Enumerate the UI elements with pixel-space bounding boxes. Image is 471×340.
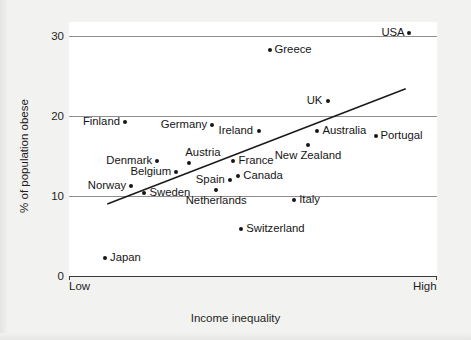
x-tick-high: High	[413, 280, 437, 292]
data-point	[103, 256, 107, 260]
data-point-label: Portugal	[381, 130, 423, 141]
figure-left-edge-shading	[0, 0, 8, 340]
data-point-label: Switzerland	[246, 223, 304, 234]
plot-panel	[69, 22, 437, 276]
gridline-20	[69, 116, 437, 117]
data-point-label: USA	[381, 27, 404, 38]
data-point-label: Netherlands	[186, 195, 247, 206]
data-point	[257, 129, 261, 133]
data-point	[326, 99, 330, 103]
figure-bottom-edge-shading	[0, 333, 471, 340]
data-point-label: Belgium	[130, 166, 171, 177]
data-point	[228, 178, 232, 182]
data-point-label: Ireland	[219, 125, 254, 136]
data-point	[374, 134, 378, 138]
data-point-label: New Zealand	[275, 150, 342, 161]
y-axis-tick-labels: 30 20 10 0	[42, 0, 64, 340]
data-point-label: Spain	[196, 174, 225, 185]
data-point	[214, 188, 218, 192]
data-point-label: Italy	[299, 194, 320, 205]
data-point-label: Greece	[275, 44, 312, 55]
data-point-label: Austria	[185, 147, 220, 158]
x-tick-low: Low	[69, 280, 90, 292]
data-point-label: France	[238, 155, 273, 166]
data-point-label: Germany	[161, 119, 207, 130]
data-point-label: Japan	[110, 252, 141, 263]
y-tick-0: 0	[44, 271, 64, 282]
x-axis-line	[69, 276, 437, 277]
data-point	[268, 48, 272, 52]
data-point-label: UK	[307, 95, 323, 106]
scatter-chart-figure: 30 20 10 0 % of population obese Low Hig…	[0, 0, 471, 340]
y-tick-20: 20	[44, 111, 64, 122]
data-point	[210, 123, 214, 127]
data-point-label: Norway	[88, 180, 126, 191]
y-tick-10: 10	[44, 191, 64, 202]
data-point	[306, 143, 310, 147]
y-axis-title: % of population obese	[18, 66, 30, 246]
data-point-label: Canada	[243, 170, 283, 181]
y-tick-30: 30	[44, 31, 64, 42]
x-axis-title: Income inequality	[0, 312, 471, 324]
data-point-label: Australia	[322, 125, 366, 136]
data-point-label: Finland	[83, 116, 120, 127]
data-point-label: Sweden	[149, 187, 190, 198]
gridline-10	[69, 196, 437, 197]
